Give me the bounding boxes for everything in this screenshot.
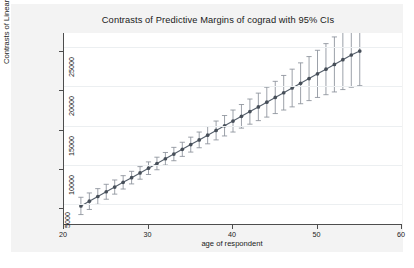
data-point-marker bbox=[316, 72, 320, 76]
data-point-marker bbox=[248, 110, 252, 114]
gridline-y bbox=[64, 204, 402, 205]
data-point-marker bbox=[164, 157, 168, 161]
x-tick-label: 60 bbox=[389, 230, 413, 239]
data-point-marker bbox=[299, 81, 303, 85]
data-point-marker bbox=[358, 49, 362, 53]
y-tick-mark bbox=[59, 169, 63, 170]
data-point-marker bbox=[96, 195, 100, 199]
gridline-y bbox=[64, 86, 402, 87]
error-bars bbox=[78, 33, 362, 215]
y-tick-mark bbox=[59, 90, 63, 91]
data-point-marker bbox=[265, 100, 269, 104]
x-tick-label: 50 bbox=[305, 230, 329, 239]
y-tick-mark bbox=[59, 208, 63, 209]
chart-title: Contrasts of Predictive Margins of cogra… bbox=[11, 15, 414, 25]
data-point-marker bbox=[104, 190, 108, 194]
x-tick-mark bbox=[401, 225, 402, 229]
x-tick-label: 20 bbox=[51, 230, 75, 239]
y-tick-mark bbox=[59, 130, 63, 131]
x-tick-label: 30 bbox=[136, 230, 160, 239]
data-point-marker bbox=[197, 138, 201, 142]
data-point-marker bbox=[333, 63, 337, 67]
data-point-marker bbox=[324, 67, 328, 71]
data-point-marker bbox=[214, 129, 218, 133]
data-point-marker bbox=[130, 176, 134, 180]
y-tick-label: 15000 bbox=[67, 136, 76, 156]
y-tick-label: 20000 bbox=[67, 96, 76, 116]
chart-page: Contrasts of Predictive Margins of cogra… bbox=[0, 0, 414, 268]
data-point-marker bbox=[307, 77, 311, 81]
gridline-y bbox=[64, 126, 402, 127]
gridline-y bbox=[64, 47, 402, 48]
y-tick-label: 25000 bbox=[67, 57, 76, 77]
y-tick-label: 10000 bbox=[67, 175, 76, 195]
graph-region: Contrasts of Predictive Margins of cogra… bbox=[11, 4, 403, 252]
data-point-marker bbox=[240, 114, 244, 118]
data-point-marker bbox=[147, 166, 151, 170]
data-point-marker bbox=[341, 58, 345, 62]
x-axis-title: age of respondent bbox=[63, 239, 401, 248]
data-point-marker bbox=[349, 53, 353, 57]
data-point-marker bbox=[189, 143, 193, 147]
data-point-marker bbox=[273, 96, 277, 100]
gridline-y bbox=[64, 165, 402, 166]
data-point-marker bbox=[257, 105, 261, 109]
data-point-marker bbox=[113, 185, 117, 189]
x-tick-mark bbox=[317, 225, 318, 229]
plot-frame bbox=[63, 33, 402, 225]
y-axis-title: Contrasts of Linear Prediction bbox=[2, 0, 11, 64]
x-tick-mark bbox=[148, 225, 149, 229]
x-tick-label: 40 bbox=[220, 230, 244, 239]
x-tick-mark bbox=[63, 225, 64, 229]
x-tick-mark bbox=[232, 225, 233, 229]
data-point-marker bbox=[206, 133, 210, 137]
data-point-marker bbox=[138, 171, 142, 175]
chart-canvas bbox=[64, 33, 402, 224]
y-tick-mark bbox=[59, 51, 63, 52]
plot-area bbox=[64, 33, 402, 224]
data-point-marker bbox=[180, 147, 184, 151]
data-point-marker bbox=[88, 199, 92, 203]
data-point-marker bbox=[172, 152, 176, 156]
data-point-marker bbox=[121, 180, 125, 184]
data-point-marker bbox=[231, 119, 235, 123]
y-tick-label: 5000 bbox=[63, 212, 72, 228]
data-point-marker bbox=[282, 91, 286, 95]
